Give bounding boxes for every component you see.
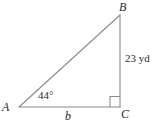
vertex-label-c: C xyxy=(121,108,129,120)
side-label-base-b: b xyxy=(65,110,71,122)
side-label-height-measure: 23 yd xyxy=(125,53,150,64)
angle-label-a: 44° xyxy=(38,90,53,101)
vertex-label-b: B xyxy=(119,1,126,13)
right-angle-marker-icon xyxy=(110,97,120,108)
geometry-diagram: B A C b 23 yd 44° xyxy=(0,0,154,127)
vertex-label-a: A xyxy=(2,101,9,113)
hypotenuse-line-ab xyxy=(19,15,120,107)
